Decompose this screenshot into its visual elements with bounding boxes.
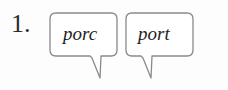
bubble-word-porc: porc <box>63 24 97 43</box>
exercise-illustration: 1. porc port <box>0 0 228 90</box>
speech-bubble-outlines <box>0 0 228 90</box>
bubble-word-port: port <box>138 24 170 43</box>
speech-bubbles-group: porc port <box>0 0 228 90</box>
